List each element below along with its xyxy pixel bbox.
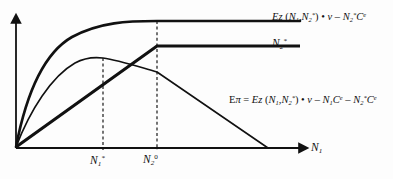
expected-profit-label-text: Eπ = Ez (N1,N2*) • v – N1Ce – N2*Ce bbox=[229, 94, 377, 105]
top-concave-curve bbox=[16, 21, 300, 147]
tick-label-n2-zero: N20 bbox=[143, 154, 158, 166]
figure-canvas bbox=[0, 0, 393, 179]
expected-revenue-label-text: Ez (N1,N2*) • v – N2*Ce bbox=[272, 11, 366, 22]
economics-figure: Ez (N1,N2*) • v – N2*Ce N2* Eπ = Ez (N1,… bbox=[0, 0, 393, 179]
tick-label-n1-star: N1* bbox=[90, 155, 105, 167]
n2-star-label: N2* bbox=[272, 38, 287, 50]
tick-label-n2-zero-text: N20 bbox=[143, 153, 158, 165]
expected-revenue-label: Ez (N1,N2*) • v – N2*Ce bbox=[272, 12, 366, 23]
x-axis-label: N1 bbox=[311, 142, 322, 154]
tick-label-n1-star-text: N1* bbox=[90, 154, 105, 166]
expected-profit-label: Eπ = Ez (N1,N2*) • v – N1Ce – N2*Ce bbox=[229, 95, 377, 106]
x-axis-label-text: N1 bbox=[311, 141, 322, 153]
n2-star-label-text: N2* bbox=[272, 37, 287, 49]
